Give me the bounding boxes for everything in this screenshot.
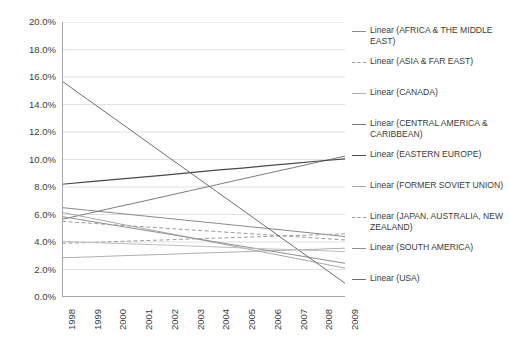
x-tick-label: 2006 — [272, 309, 283, 330]
line-chart: 0.0%2.0%4.0%6.0%8.0%10.0%12.0%14.0%16.0%… — [0, 0, 509, 345]
legend-item-label: Linear (SOUTH AMERICA) — [370, 242, 473, 253]
x-axis-tick-labels: 1998199920002001200220032004200520062007… — [62, 300, 345, 345]
legend-line-swatch-icon — [352, 214, 366, 222]
legend-line-swatch-icon — [352, 276, 366, 284]
y-tick-label: 2.0% — [0, 265, 56, 275]
x-tick-label: 2005 — [246, 309, 257, 330]
legend-line-swatch-icon — [352, 90, 366, 98]
x-tick-label: 1998 — [66, 309, 77, 330]
y-tick-label: 18.0% — [0, 45, 56, 55]
plot-area — [62, 22, 345, 297]
x-tick-label: 1999 — [92, 309, 103, 330]
legend-item[interactable]: Linear (CANADA) — [352, 87, 509, 98]
legend-item[interactable]: Linear (ASIA & FAR EAST) — [352, 56, 509, 67]
y-tick-label: 16.0% — [0, 72, 56, 82]
plot-lines — [62, 22, 345, 297]
series-line-3 — [62, 156, 345, 219]
legend-item-label: Linear (CENTRAL AMERICA & CARIBBEAN) — [370, 118, 509, 139]
legend-item[interactable]: Linear (EASTERN EUROPE) — [352, 149, 509, 160]
series-line-4 — [62, 159, 345, 184]
y-tick-label: 6.0% — [0, 210, 56, 220]
legend-item[interactable]: Linear (JAPAN, AUSTRALIA, NEW ZEALAND) — [352, 211, 509, 232]
series-line-9 — [62, 241, 345, 251]
chart-legend: Linear (AFRICA & THE MIDDLE EAST)Linear … — [352, 0, 509, 345]
y-tick-label: 4.0% — [0, 237, 56, 247]
legend-item[interactable]: Linear (FORMER SOVIET UNION) — [352, 180, 509, 191]
legend-line-swatch-icon — [352, 245, 366, 253]
y-tick-label: 20.0% — [0, 17, 56, 27]
y-tick-label: 14.0% — [0, 100, 56, 110]
legend-item[interactable]: Linear (AFRICA & THE MIDDLE EAST) — [352, 25, 509, 46]
x-tick-label: 2000 — [117, 309, 128, 330]
series-line-6 — [62, 221, 345, 240]
series-line-0 — [62, 208, 345, 237]
x-tick-label: 2004 — [220, 309, 231, 330]
y-axis-tick-labels: 0.0%2.0%4.0%6.0%8.0%10.0%12.0%14.0%16.0%… — [0, 0, 56, 345]
legend-item[interactable]: Linear (CENTRAL AMERICA & CARIBBEAN) — [352, 118, 509, 139]
x-tick-label: 2007 — [298, 309, 309, 330]
y-tick-label: 0.0% — [0, 292, 56, 302]
x-tick-label: 2003 — [195, 309, 206, 330]
legend-item[interactable]: Linear (USA) — [352, 273, 509, 284]
legend-line-swatch-icon — [352, 121, 366, 129]
x-tick-label: 2002 — [169, 309, 180, 330]
legend-item-label: Linear (CANADA) — [370, 87, 438, 98]
legend-line-swatch-icon — [352, 28, 366, 36]
legend-line-swatch-icon — [352, 183, 366, 191]
legend-item-label: Linear (AFRICA & THE MIDDLE EAST) — [370, 25, 509, 46]
legend-item-label: Linear (JAPAN, AUSTRALIA, NEW ZEALAND) — [370, 211, 509, 232]
y-tick-label: 10.0% — [0, 155, 56, 165]
legend-item-label: Linear (USA) — [370, 273, 420, 284]
y-tick-label: 8.0% — [0, 182, 56, 192]
x-tick-label: 2008 — [323, 309, 334, 330]
legend-line-swatch-icon — [352, 59, 366, 67]
legend-item-label: Linear (ASIA & FAR EAST) — [370, 56, 473, 67]
legend-line-swatch-icon — [352, 152, 366, 160]
legend-item-label: Linear (FORMER SOVIET UNION) — [370, 180, 503, 191]
legend-item[interactable]: Linear (SOUTH AMERICA) — [352, 242, 509, 253]
legend-item-label: Linear (EASTERN EUROPE) — [370, 149, 481, 160]
y-tick-label: 12.0% — [0, 127, 56, 137]
x-tick-label: 2001 — [143, 309, 154, 330]
